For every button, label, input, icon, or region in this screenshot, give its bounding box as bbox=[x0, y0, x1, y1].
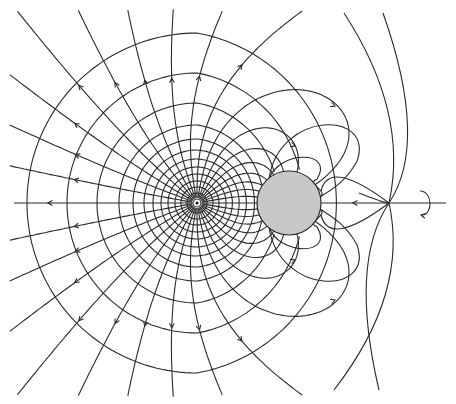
conducting-sphere bbox=[257, 171, 321, 235]
arrowhead-icon bbox=[421, 214, 426, 219]
point-charge-icon bbox=[193, 199, 201, 207]
field-line bbox=[197, 208, 302, 395]
field-lines-diagram bbox=[0, 0, 456, 404]
field-line bbox=[128, 10, 195, 199]
rotation-arrow-icon bbox=[420, 191, 430, 218]
separatrix-line bbox=[334, 203, 393, 390]
field-line bbox=[202, 196, 259, 202]
field-line bbox=[128, 207, 195, 396]
field-line bbox=[202, 204, 259, 210]
charge-dot bbox=[196, 202, 199, 205]
figure-canvas bbox=[0, 0, 456, 404]
separatrix-line bbox=[344, 13, 394, 203]
field-line bbox=[197, 11, 302, 198]
outer-field-arcs bbox=[321, 13, 408, 390]
